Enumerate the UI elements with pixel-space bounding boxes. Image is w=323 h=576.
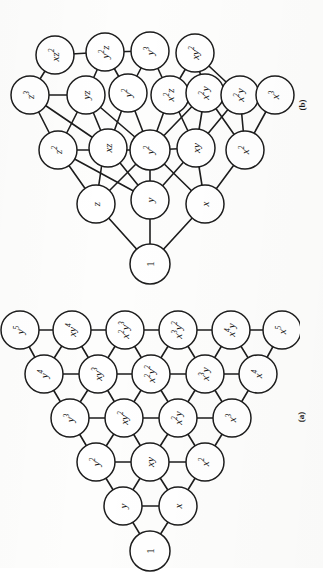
panel-b: 1 z y x z2 xz y2 yz xy x2	[0, 0, 323, 284]
node-1: 1	[130, 531, 170, 571]
node-x3: x3	[256, 76, 294, 114]
node-xz2: xz2	[36, 36, 74, 74]
panel-b-caption: (b)	[297, 100, 307, 111]
node-x2: x2	[186, 443, 224, 481]
svg-text:xz: xz	[102, 143, 114, 154]
node-z3: z3	[11, 76, 49, 114]
node-x: x	[186, 185, 224, 223]
node-x3y2: x3y2	[159, 311, 197, 349]
node-xz: xz	[89, 129, 127, 167]
node-x2y2: x2y2	[132, 355, 170, 393]
panel-a-nodes: 1 y x y2 xy x2 y3 xy2 x2y	[1, 311, 300, 571]
svg-text:xy: xy	[144, 457, 156, 468]
node-x2y3: x2y3	[106, 311, 144, 349]
node-y2z: y2z	[86, 33, 124, 71]
svg-text:1: 1	[144, 548, 156, 554]
node-x3y: x3y	[186, 355, 224, 393]
node-y3: y3	[51, 399, 89, 437]
panel-a-graph: 1 y x y2 xy x2 y3 xy2 x2y	[0, 294, 300, 576]
node-y3: y3	[131, 32, 169, 70]
node-y: y	[104, 487, 142, 525]
node-x2z: x2z	[151, 76, 189, 114]
node-1: 1	[130, 244, 170, 284]
node-xy4: xy4	[53, 311, 91, 349]
svg-text:xy: xy	[190, 143, 202, 154]
svg-text:yz: yz	[80, 90, 92, 101]
node-xy2: xy2	[176, 34, 214, 72]
node-x2y: x2y	[186, 74, 224, 112]
node-x4y: x4y	[212, 311, 250, 349]
node-x5: x5	[263, 311, 300, 349]
node-xy3: xy3	[79, 355, 117, 393]
node-xyz: y2	[130, 130, 170, 170]
node-x4: x4	[239, 355, 277, 393]
node-xy2: xy2	[105, 399, 143, 437]
node-yz: yz	[67, 76, 105, 114]
node-x2: x2	[226, 131, 264, 169]
node-x2y-lower: x2y	[221, 76, 259, 114]
node-xy: xy	[177, 129, 215, 167]
svg-text:1: 1	[144, 261, 156, 267]
panel-a-caption: (a)	[296, 412, 306, 423]
panel-a: 1 y x y2 xy x2 y3 xy2 x2y	[0, 284, 323, 568]
node-x3: x3	[213, 399, 251, 437]
node-y: y	[131, 181, 169, 219]
node-y2: y2	[109, 74, 147, 112]
node-y5: y5	[1, 311, 39, 349]
node-z2: z2	[39, 131, 77, 169]
panel-b-nodes: 1 z y x z2 xz y2 yz xy x2	[11, 32, 294, 284]
node-xy: xy	[131, 443, 169, 481]
node-y4: y4	[25, 355, 63, 393]
node-x2y: x2y	[159, 399, 197, 437]
node-x: x	[159, 487, 197, 525]
node-z: z	[77, 185, 115, 223]
panel-b-graph: 1 z y x z2 xz y2 yz xy x2	[0, 10, 300, 300]
node-y2: y2	[77, 443, 115, 481]
